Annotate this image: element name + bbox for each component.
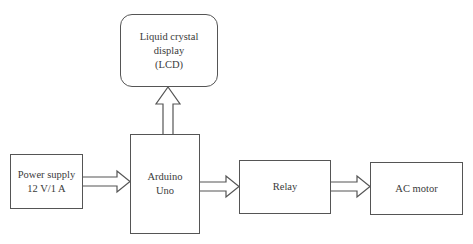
arduino-label-line2: Uno [156, 184, 174, 198]
arduino-label-line1: Arduino [148, 170, 183, 184]
ac-motor-block: AC motor [370, 162, 463, 215]
ac-motor-label: AC motor [395, 182, 437, 196]
arrow-arduino-to-relay [200, 176, 239, 197]
lcd-label-line2: display [154, 44, 184, 58]
power-label-line2: 12 V/1 A [27, 182, 65, 196]
arrow-arduino-to-lcd [156, 87, 180, 134]
relay-label: Relay [273, 180, 298, 194]
power-label-line1: Power supply [18, 168, 75, 182]
power-supply-block: Power supply 12 V/1 A [10, 154, 83, 209]
arrow-relay-to-motor [331, 176, 370, 197]
arduino-block: Arduino Uno [130, 134, 200, 234]
arrow-power-to-arduino [83, 171, 130, 192]
lcd-label-line3: (LCD) [155, 58, 183, 72]
lcd-label-line1: Liquid crystal [140, 30, 199, 44]
lcd-block: Liquid crystal display (LCD) [120, 14, 218, 87]
relay-block: Relay [239, 160, 331, 214]
